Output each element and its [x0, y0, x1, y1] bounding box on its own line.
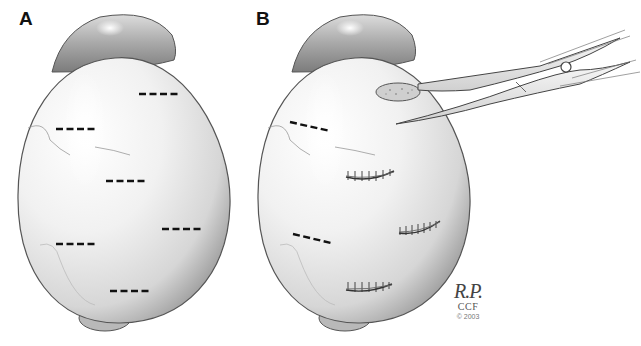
- signature-copyright: © 2003: [448, 312, 488, 321]
- panel-label-a: A: [19, 8, 33, 30]
- surgical-illustration: [0, 0, 641, 346]
- artist-signature: R.P. CCF © 2003: [448, 281, 488, 321]
- panel-label-b: B: [256, 8, 270, 30]
- panel-a-globe: [18, 15, 230, 331]
- panel-b-globe: [258, 15, 470, 331]
- signature-organization: CCF: [448, 301, 488, 312]
- excised-tissue: [376, 83, 420, 101]
- signature-initials: R.P.: [448, 281, 488, 301]
- scissors-pivot: [561, 62, 571, 72]
